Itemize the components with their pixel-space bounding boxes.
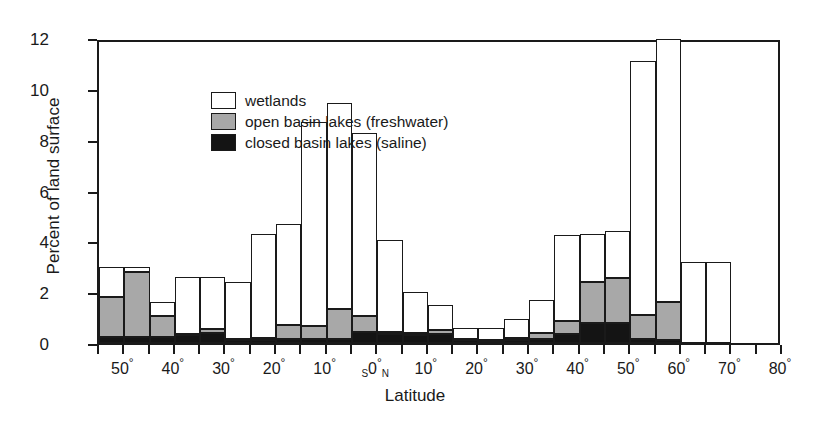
bar-segment-wet <box>428 305 453 330</box>
bar-segment-wet <box>706 262 731 343</box>
x-axis-tick-label: 80° <box>769 357 792 378</box>
bar <box>225 282 250 343</box>
bar <box>453 328 478 343</box>
x-axis-tick-mark <box>628 345 630 354</box>
bar-segment-closed <box>377 334 402 343</box>
bar-series-container <box>99 42 778 343</box>
x-axis-tick-mark <box>654 345 656 354</box>
y-axis-tick-label: 0 <box>3 335 49 355</box>
y-axis-tick-label: 8 <box>3 132 49 152</box>
x-axis-tick-mark <box>451 345 453 354</box>
y-axis-tick-mark <box>88 344 97 346</box>
bar-segment-open <box>630 315 655 339</box>
x-axis-tick-mark <box>704 345 706 354</box>
bar-segment-open <box>200 329 225 333</box>
bar-segment-closed <box>150 337 175 343</box>
legend-label: closed basin lakes (saline) <box>245 134 427 152</box>
y-axis-tick-mark <box>88 242 97 244</box>
bar-segment-open <box>377 332 402 335</box>
x-axis-tick-mark <box>375 345 377 354</box>
x-axis-tick-mark <box>527 345 529 354</box>
legend-item: closed basin lakes (saline) <box>211 132 511 153</box>
bar-segment-wet <box>630 61 655 315</box>
bar-segment-wet <box>504 319 529 338</box>
x-axis-tick-label: 40° <box>566 357 589 378</box>
bar <box>403 292 428 343</box>
bar <box>681 262 706 343</box>
legend-label: open basin lakes (freshwater) <box>245 113 448 131</box>
y-axis-tick-label: 6 <box>3 183 49 203</box>
bar-segment-wet <box>605 231 630 278</box>
y-axis-tick-label: 2 <box>3 284 49 304</box>
bar <box>251 234 276 343</box>
x-axis-tick-label: 30° <box>212 357 235 378</box>
bar <box>656 39 681 343</box>
legend-item: open basin lakes (freshwater) <box>211 111 511 132</box>
bar-segment-wet <box>251 234 276 338</box>
bar-segment-closed <box>529 339 554 343</box>
chart-legend: wetlandsopen basin lakes (freshwater)clo… <box>211 90 511 153</box>
x-axis-tick-mark <box>97 345 99 354</box>
bar <box>200 277 225 343</box>
bar-segment-closed <box>605 323 630 343</box>
bar-segment-wet <box>175 277 200 334</box>
bar <box>580 234 605 343</box>
bar <box>478 328 503 343</box>
bar-segment-closed <box>352 332 377 343</box>
x-axis-tick-mark <box>426 345 428 354</box>
x-axis-tick-label: 40° <box>162 357 185 378</box>
bar-segment-wet <box>200 277 225 329</box>
x-axis-tick-mark <box>502 345 504 354</box>
bar-segment-closed <box>276 339 301 343</box>
bar-segment-open <box>428 330 453 334</box>
x-axis-tick-mark <box>729 345 731 354</box>
bar-segment-open <box>327 309 352 340</box>
bar-segment-wet <box>150 302 175 316</box>
bar-segment-wet <box>529 300 554 333</box>
bar-segment-wet <box>453 328 478 339</box>
x-axis-tick-mark <box>325 345 327 354</box>
bar-segment-open <box>150 316 175 336</box>
bar-segment-open <box>554 321 579 334</box>
y-axis-tick-label: 10 <box>3 81 49 101</box>
x-axis-tick-label: S0°N <box>361 357 389 378</box>
bar-segment-closed <box>630 339 655 343</box>
bar-segment-closed <box>124 337 149 343</box>
bar-segment-closed <box>554 334 579 343</box>
bar-segment-open <box>605 278 630 322</box>
x-axis-tick-label: 10° <box>313 357 336 378</box>
bar-segment-closed <box>175 335 200 343</box>
bar-segment-open <box>529 333 554 339</box>
x-axis-tick-mark <box>122 345 124 354</box>
bar-segment-open <box>251 338 276 341</box>
legend-swatch-open <box>211 113 236 130</box>
x-axis-tick-mark <box>173 345 175 354</box>
bar-segment-closed <box>504 340 529 343</box>
bar <box>630 61 655 343</box>
x-axis-tick-mark <box>578 345 580 354</box>
bar-segment-closed <box>453 340 478 343</box>
bar-segment-wet <box>656 39 681 302</box>
bar <box>276 224 301 343</box>
y-axis-tick-mark <box>88 293 97 295</box>
y-axis-tick-mark <box>88 90 97 92</box>
bar <box>301 122 326 343</box>
bar-segment-open <box>124 272 149 337</box>
bar-segment-closed <box>99 337 124 343</box>
bar-segment-wet <box>580 234 605 282</box>
x-axis-tick-mark <box>249 345 251 354</box>
x-axis-tick-mark <box>679 345 681 354</box>
x-axis-tick-mark <box>274 345 276 354</box>
bar-segment-closed <box>251 340 276 343</box>
x-axis-tick-mark <box>350 345 352 354</box>
x-axis-tick-mark <box>755 345 757 354</box>
bar <box>124 267 149 343</box>
x-axis-tick-mark <box>148 345 150 354</box>
x-axis-tick-label: 60° <box>668 357 691 378</box>
x-axis-tick-mark <box>223 345 225 354</box>
x-axis-tick-mark <box>552 345 554 354</box>
bar-segment-closed <box>403 335 428 343</box>
bar-segment-closed <box>428 334 453 343</box>
bar-segment-open <box>276 325 301 339</box>
x-axis-tick-mark <box>401 345 403 354</box>
